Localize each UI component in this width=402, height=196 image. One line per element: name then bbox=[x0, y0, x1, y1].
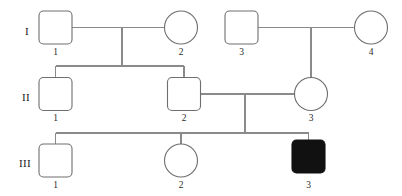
individual-I-3-unaffected[interactable] bbox=[225, 11, 258, 44]
individual-III-1-unaffected[interactable] bbox=[39, 144, 72, 177]
id-label-III-2: 2 bbox=[179, 180, 184, 190]
id-label-II-3: 3 bbox=[309, 113, 314, 123]
mating-I3-I4 bbox=[258, 28, 355, 78]
individual-III-3-affected[interactable] bbox=[292, 140, 325, 173]
id-label-III-1: 1 bbox=[53, 180, 58, 190]
individual-III-2-unaffected[interactable] bbox=[165, 144, 198, 177]
individual-II-3-unaffected[interactable] bbox=[295, 78, 328, 111]
individual-I-1-unaffected[interactable] bbox=[39, 11, 72, 44]
pedigree-chart: 1234123123 IIIIII bbox=[0, 0, 402, 196]
id-label-III-3: 3 bbox=[306, 180, 311, 190]
id-label-I-4: 4 bbox=[369, 47, 374, 57]
pedigree-canvas: 1234123123 IIIIII bbox=[0, 0, 402, 196]
generation-label-III: III bbox=[19, 157, 31, 169]
id-label-I-1: 1 bbox=[53, 47, 58, 57]
individual-I-2-unaffected[interactable] bbox=[165, 11, 198, 44]
individual-II-1-unaffected[interactable] bbox=[39, 78, 72, 111]
id-label-II-1: 1 bbox=[53, 113, 58, 123]
pedigree-generation-labels: IIIIII bbox=[19, 25, 31, 169]
individual-I-4-unaffected[interactable] bbox=[355, 11, 388, 44]
id-label-I-2: 2 bbox=[179, 47, 184, 57]
generation-label-I: I bbox=[25, 25, 29, 37]
generation-label-II: II bbox=[22, 91, 30, 103]
individual-II-2-unaffected[interactable] bbox=[168, 78, 201, 111]
id-label-I-3: 3 bbox=[239, 47, 244, 57]
mating-I1-I2 bbox=[56, 28, 185, 78]
id-label-II-2: 2 bbox=[182, 113, 187, 123]
